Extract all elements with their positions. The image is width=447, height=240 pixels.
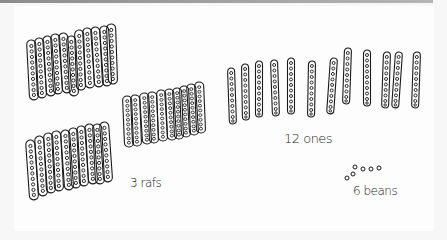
raft-3 <box>123 82 206 147</box>
loose-beans <box>345 165 381 180</box>
raft-2 <box>26 122 113 200</box>
raft-1 <box>27 24 118 100</box>
ones-sticks <box>228 48 421 124</box>
beans-label: 6 beans <box>353 184 397 198</box>
ones-label: 12 ones <box>284 131 332 146</box>
rafts-label: 3 rafs <box>130 176 161 190</box>
